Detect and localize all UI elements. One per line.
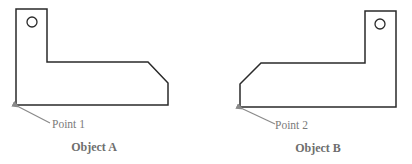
point-2-label: Point 2 — [275, 119, 308, 131]
object-a-outline — [16, 9, 168, 105]
point-2-arrow — [243, 109, 275, 124]
object-a: Point 1 Object A — [16, 9, 168, 154]
object-b-outline — [240, 11, 396, 107]
object-a-hole — [27, 17, 37, 27]
object-b: Point 2 Object B — [240, 11, 396, 155]
point-1-arrow — [19, 107, 50, 123]
diagram-canvas: Point 1 Object A Point 2 Object B — [0, 0, 412, 164]
point-1-label: Point 1 — [52, 118, 85, 130]
object-a-caption: Object A — [71, 140, 117, 154]
object-b-caption: Object B — [295, 141, 341, 155]
object-b-hole — [375, 19, 385, 29]
